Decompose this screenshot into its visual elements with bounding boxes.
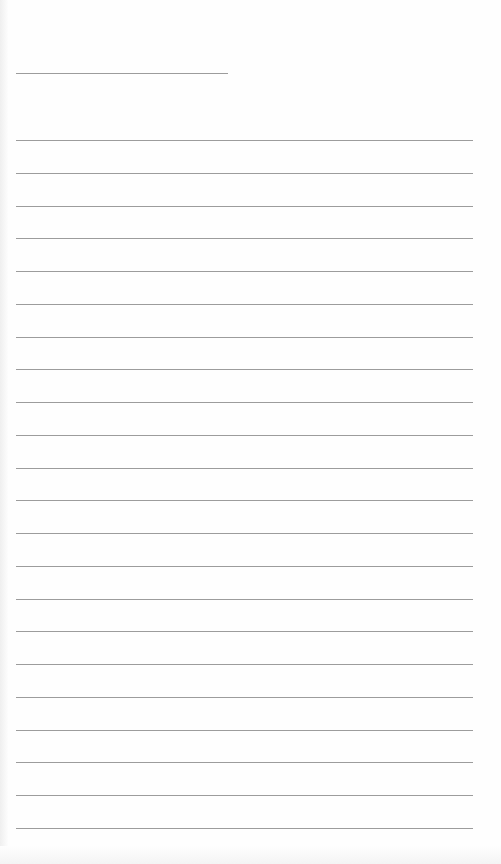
ruled-line	[16, 599, 473, 600]
ruled-line	[16, 337, 473, 338]
ruled-line	[16, 664, 473, 665]
ruled-line	[16, 271, 473, 272]
ruled-line	[16, 828, 473, 829]
title-line	[16, 73, 228, 74]
ruled-line	[16, 206, 473, 207]
ruled-line	[16, 402, 473, 403]
ruled-line	[16, 795, 473, 796]
ruled-line	[16, 533, 473, 534]
page-bottom-shadow	[0, 846, 501, 864]
ruled-line	[16, 697, 473, 698]
ruled-line	[16, 468, 473, 469]
ruled-line	[16, 631, 473, 632]
page-edge-shadow	[0, 0, 8, 864]
ruled-line	[16, 304, 473, 305]
ruled-line	[16, 730, 473, 731]
ruled-line	[16, 500, 473, 501]
notebook-page	[0, 0, 501, 864]
ruled-line	[16, 369, 473, 370]
ruled-line	[16, 566, 473, 567]
ruled-line	[16, 140, 473, 141]
ruled-line	[16, 238, 473, 239]
ruled-line	[16, 762, 473, 763]
ruled-line	[16, 435, 473, 436]
ruled-line	[16, 173, 473, 174]
